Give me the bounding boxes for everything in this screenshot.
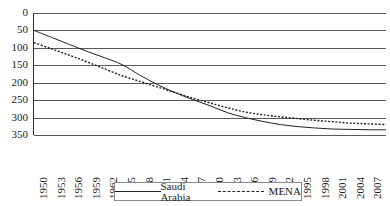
- legend-entry: Saudi Arabia: [115, 181, 211, 203]
- y-axis-tick-label: 250: [2, 94, 28, 105]
- y-axis-tick-label: 300: [2, 112, 28, 123]
- series-line-saudi-arabia: [34, 30, 386, 129]
- gridline: [34, 135, 386, 136]
- x-axis-tick-label: 2001: [337, 177, 348, 199]
- line-chart: 050100150200250300350 195019531956195919…: [0, 0, 390, 206]
- x-axis-tick-label: 1998: [320, 177, 331, 199]
- y-axis-tick-label: 0: [2, 7, 28, 18]
- y-axis-tick-label: 350: [2, 129, 28, 140]
- x-axis-tick-label: 1995: [302, 177, 313, 199]
- y-axis-tick-label: 150: [2, 59, 28, 70]
- x-axis-tick-label: 1959: [91, 177, 102, 199]
- x-axis-tick-label: 1956: [73, 177, 84, 199]
- x-axis: 1950195319561959196219651968197119741977…: [33, 137, 385, 179]
- y-axis-tick-label: 50: [2, 24, 28, 35]
- legend-entry: MENA: [218, 186, 301, 197]
- plot-area: [33, 13, 385, 135]
- x-axis-tick-label: 2004: [355, 177, 366, 199]
- x-axis-tick-label: 1953: [56, 177, 67, 199]
- x-axis-tick-label: 2007: [372, 177, 383, 199]
- legend-line-icon: [218, 188, 264, 195]
- chart-legend: Saudi ArabiaMENA: [114, 182, 302, 201]
- y-axis-tick-label: 200: [2, 77, 28, 88]
- legend-line-icon: [115, 188, 155, 195]
- legend-label: MENA: [269, 186, 301, 197]
- legend-label: Saudi Arabia: [160, 181, 210, 203]
- series-lines: [34, 13, 386, 135]
- y-axis-tick-label: 100: [2, 42, 28, 53]
- x-axis-tick-label: 1950: [38, 177, 49, 199]
- y-axis: 050100150200250300350: [0, 0, 30, 206]
- series-line-mena: [34, 43, 386, 125]
